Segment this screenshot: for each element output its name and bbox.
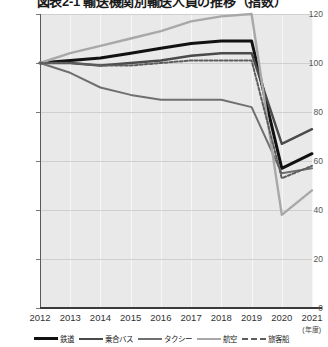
- series-line: [40, 53, 312, 144]
- legend-swatch: [242, 338, 266, 340]
- chart-legend: 鉄道乗合バスタクシー航空旅客船: [0, 333, 323, 344]
- legend-item[interactable]: 鉄道: [34, 333, 74, 344]
- legend-swatch: [138, 338, 162, 340]
- legend-label: 乗合バス: [105, 333, 133, 344]
- legend-label: 旅客船: [268, 333, 289, 344]
- legend-swatch: [79, 338, 103, 340]
- legend-item[interactable]: 航空: [197, 333, 237, 344]
- legend-label: タクシー: [164, 333, 192, 344]
- legend-swatch: [197, 338, 221, 340]
- legend-label: 航空: [223, 333, 237, 344]
- legend-item[interactable]: 乗合バス: [79, 333, 133, 344]
- legend-item[interactable]: タクシー: [138, 333, 192, 344]
- legend-item[interactable]: 旅客船: [242, 333, 289, 344]
- legend-swatch: [34, 337, 58, 340]
- legend-label: 鉄道: [60, 333, 74, 344]
